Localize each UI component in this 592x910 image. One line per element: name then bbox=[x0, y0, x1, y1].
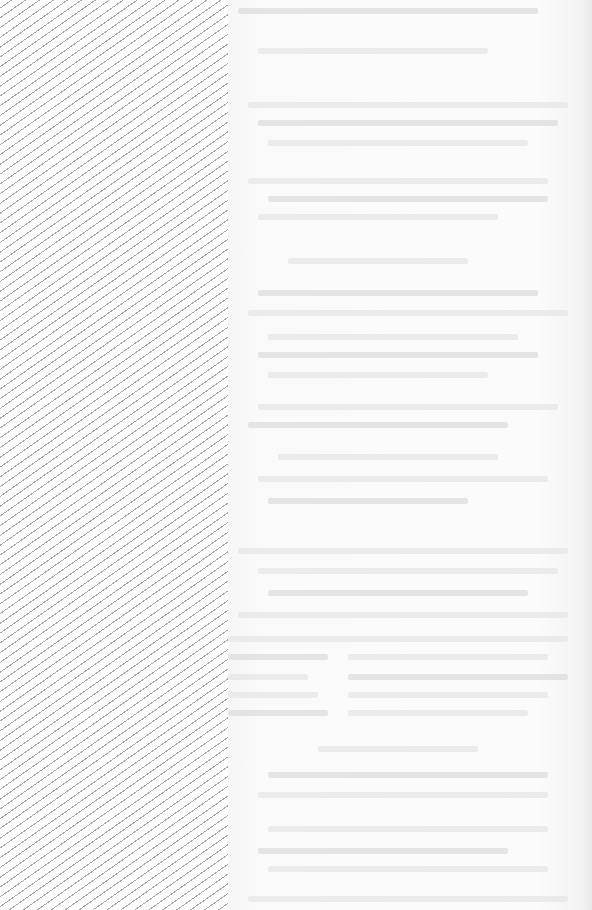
bleed-through-text-line bbox=[268, 866, 548, 872]
bleed-through-text-line bbox=[348, 674, 568, 680]
bleed-through-text-line bbox=[268, 372, 488, 378]
bleed-through-text-line bbox=[348, 654, 548, 660]
bleed-through-text-line bbox=[268, 590, 528, 596]
bleed-through-text-line bbox=[348, 710, 528, 716]
bleed-through-text-line bbox=[268, 196, 548, 202]
bleed-through-text-line bbox=[228, 654, 328, 660]
scanned-page-area bbox=[228, 0, 592, 910]
bleed-through-text-line bbox=[228, 636, 568, 642]
bleed-through-text-line bbox=[248, 310, 568, 316]
bleed-through-text-line bbox=[228, 674, 308, 680]
bleed-through-text-line bbox=[268, 334, 518, 340]
bleed-through-text-line bbox=[228, 692, 318, 698]
bleed-through-text-line bbox=[268, 772, 548, 778]
bleed-through-text-line bbox=[278, 454, 498, 460]
bleed-through-text-line bbox=[238, 8, 538, 14]
bleed-through-text-line bbox=[288, 258, 468, 264]
hatched-margin-panel bbox=[0, 0, 228, 910]
bleed-through-text-line bbox=[268, 140, 528, 146]
bleed-through-text-line bbox=[318, 746, 478, 752]
bleed-through-text-line bbox=[258, 48, 488, 54]
bleed-through-text-line bbox=[348, 692, 548, 698]
page-edge-shadow bbox=[582, 0, 592, 910]
bleed-through-text-line bbox=[248, 102, 568, 108]
bleed-through-text-line bbox=[258, 404, 558, 410]
bleed-through-text-line bbox=[248, 178, 548, 184]
bleed-through-text-line bbox=[258, 352, 538, 358]
bleed-through-text-line bbox=[238, 612, 568, 618]
bleed-through-text-line bbox=[258, 290, 538, 296]
bleed-through-text-line bbox=[268, 826, 548, 832]
bleed-through-text-line bbox=[258, 568, 558, 574]
bleed-through-text-line bbox=[258, 120, 558, 126]
bleed-through-text-line bbox=[268, 498, 468, 504]
bleed-through-text-line bbox=[248, 422, 508, 428]
bleed-through-text-line bbox=[258, 476, 548, 482]
bleed-through-text-line bbox=[248, 896, 568, 902]
bleed-through-text-line bbox=[258, 214, 498, 220]
bleed-through-text-line bbox=[228, 710, 328, 716]
bleed-through-text-line bbox=[258, 848, 508, 854]
bleed-through-text-line bbox=[238, 548, 568, 554]
bleed-through-text-line bbox=[258, 792, 548, 798]
